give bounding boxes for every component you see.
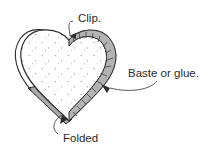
label-clip: Clip. [78, 12, 101, 24]
label-folded: Folded [63, 132, 98, 144]
sewing-diagram-figure: Clip. Baste or glue. Folded [0, 0, 208, 153]
baste-leader-line [110, 81, 157, 90]
heart-diagram-svg: Clip. Baste or glue. Folded [0, 0, 208, 153]
clip-leader-line [69, 21, 73, 36]
label-baste-or-glue: Baste or glue. [128, 67, 199, 79]
baste-arrowhead [101, 84, 110, 93]
